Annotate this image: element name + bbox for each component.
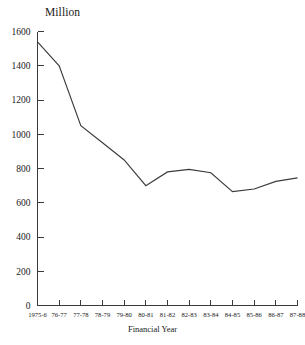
y-tick-label: 200 xyxy=(16,267,31,277)
x-tick-label: 81-82 xyxy=(160,311,175,318)
x-tick-label: 1975-6 xyxy=(28,311,47,318)
y-tick-label: 1600 xyxy=(12,27,31,37)
x-tick-label: 87-88 xyxy=(290,311,305,318)
x-tick-label: 82-83 xyxy=(181,311,197,318)
y-tick-label: 800 xyxy=(16,164,31,174)
x-axis-tick-marks xyxy=(59,300,297,306)
x-tick-label: 78-79 xyxy=(95,311,111,318)
x-axis-title: Financial Year xyxy=(0,324,305,334)
y-tick-label: 1000 xyxy=(12,130,31,140)
y-axis-tick-labels: 02004006008001000120014001600 xyxy=(12,27,31,311)
x-tick-label: 77-78 xyxy=(73,311,89,318)
x-tick-label: 79-80 xyxy=(116,311,132,318)
y-tick-label: 600 xyxy=(16,198,31,208)
y-tick-label: 400 xyxy=(16,232,31,242)
x-tick-label: 85-86 xyxy=(246,311,262,318)
y-tick-label: 1400 xyxy=(12,61,31,71)
line-chart: Million 02004006008001000120014001600 19… xyxy=(0,0,305,345)
x-axis-tick-labels: 1975-676-7777-7878-7979-8080-8181-8282-8… xyxy=(28,311,305,318)
x-tick-label: 83-84 xyxy=(203,311,219,318)
x-tick-label: 84-85 xyxy=(225,311,241,318)
chart-plot-area: 02004006008001000120014001600 1975-676-7… xyxy=(0,0,305,345)
y-tick-label: 0 xyxy=(26,301,31,311)
data-series-line xyxy=(38,42,298,192)
y-tick-label: 1200 xyxy=(12,95,31,105)
y-axis-tick-marks xyxy=(38,32,44,306)
x-tick-label: 76-77 xyxy=(51,311,67,318)
x-tick-label: 80-81 xyxy=(138,311,153,318)
x-tick-label: 86-87 xyxy=(268,311,284,318)
